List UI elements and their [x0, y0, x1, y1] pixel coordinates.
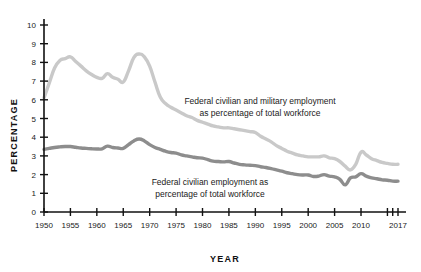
y-tick-label: 1 — [32, 189, 37, 198]
y-tick-label: 0 — [32, 208, 37, 217]
total-employment-label-line1: Federal civilian and military employment — [184, 96, 336, 106]
x-tick-label: 1950 — [35, 221, 53, 230]
x-tick-label: 2010 — [352, 221, 370, 230]
x-tick-label: 1985 — [220, 221, 238, 230]
civilian-employment-label-line1: Federal civilian employment as — [152, 177, 269, 187]
x-tick-label: 2000 — [299, 221, 317, 230]
y-tick-label: 5 — [32, 115, 37, 124]
chart-container: 0123456789101950195519601965197019751980… — [0, 0, 421, 272]
y-tick-label: 4 — [32, 133, 37, 142]
x-tick-label: 1990 — [246, 221, 264, 230]
x-tick-label: 1995 — [273, 221, 291, 230]
y-tick-label: 3 — [32, 152, 37, 161]
civilian-employment-label-line2: percentage of total workforce — [155, 189, 265, 199]
x-tick-label: 2005 — [326, 221, 344, 230]
y-tick-label: 8 — [32, 58, 37, 67]
x-tick-label: 1970 — [141, 221, 159, 230]
x-tick-label: 2017 — [389, 221, 407, 230]
y-tick-label: 7 — [32, 77, 37, 86]
y-tick-label: 9 — [32, 40, 37, 49]
y-axis-title: PERCENTAGE — [9, 98, 19, 172]
y-tick-label: 2 — [32, 171, 37, 180]
total-employment-label-line2: as percentage of total workforce — [200, 108, 321, 118]
employment-percentage-line-chart: 0123456789101950195519601965197019751980… — [0, 0, 421, 272]
y-tick-label: 10 — [27, 21, 36, 30]
x-tick-label: 1980 — [194, 221, 212, 230]
x-tick-label: 1965 — [114, 221, 132, 230]
x-tick-label: 1960 — [88, 221, 106, 230]
y-tick-label: 6 — [32, 96, 37, 105]
x-axis-title: YEAR — [210, 254, 240, 264]
x-tick-label: 1975 — [167, 221, 185, 230]
chart-background — [0, 0, 421, 272]
x-tick-label: 1955 — [62, 221, 80, 230]
